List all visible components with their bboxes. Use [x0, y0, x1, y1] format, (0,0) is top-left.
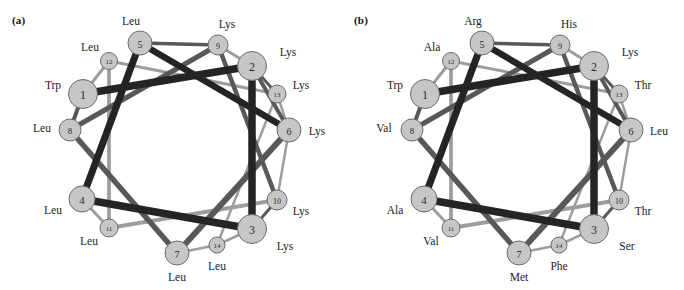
residue-node-14[interactable] [551, 237, 567, 253]
residue-node-10[interactable] [609, 190, 629, 210]
residue-label-1: Trp [45, 79, 61, 91]
residue-node-13[interactable] [610, 85, 628, 103]
residue-label-4: Ala [387, 204, 404, 216]
residue-node-10[interactable] [267, 190, 287, 210]
residue-label-3: Lys [277, 240, 294, 252]
residue-label-10: Lys [293, 205, 310, 217]
panel-b: (b)1234567891011121314TrpLysSerAlaArgLeu… [342, 0, 684, 290]
residue-node-3[interactable] [580, 215, 609, 244]
residue-node-9[interactable] [550, 35, 570, 55]
residue-node-11[interactable] [442, 219, 460, 237]
residue-node-13[interactable] [268, 85, 286, 103]
helical-wheel-figure: (a)1234567891011121314TrpLysLysLeuLeuLys… [0, 0, 684, 290]
residue-node-6[interactable] [619, 118, 643, 142]
residue-label-6: Lys [309, 125, 326, 137]
residue-label-3: Ser [619, 240, 634, 252]
residue-node-8[interactable] [401, 119, 423, 141]
edge-5-6 [482, 43, 631, 130]
residue-label-11: Leu [80, 235, 98, 247]
residue-label-7: Leu [168, 271, 186, 283]
residue-label-9: Lys [219, 18, 236, 30]
residue-label-11: Val [423, 235, 438, 247]
residue-node-12[interactable] [443, 53, 460, 70]
residue-label-8: Val [376, 122, 391, 134]
residue-label-8: Leu [33, 122, 51, 134]
residue-label-2: Lys [280, 46, 297, 58]
residue-label-6: Leu [650, 125, 668, 137]
residue-label-2: Lys [622, 46, 639, 58]
residue-label-12: Leu [81, 41, 99, 53]
residue-label-7: Met [510, 271, 529, 283]
residue-label-1: Trp [387, 79, 403, 91]
residue-label-14: Leu [208, 260, 226, 272]
panel-a: (a)1234567891011121314TrpLysLysLeuLeuLys… [0, 0, 342, 290]
residue-node-2[interactable] [580, 52, 609, 81]
residue-node-5[interactable] [128, 31, 152, 55]
residue-node-7[interactable] [165, 241, 189, 265]
residue-node-12[interactable] [101, 53, 118, 70]
residue-node-7[interactable] [507, 241, 531, 265]
residue-node-1[interactable] [69, 80, 98, 109]
residue-node-9[interactable] [208, 35, 228, 55]
residue-node-4[interactable] [69, 186, 95, 212]
residue-node-3[interactable] [238, 215, 267, 244]
residue-label-5: Arg [464, 15, 482, 27]
residue-node-2[interactable] [238, 52, 267, 81]
residue-node-6[interactable] [277, 118, 301, 142]
residue-label-14: Phe [550, 260, 567, 272]
residue-node-11[interactable] [100, 219, 118, 237]
edge-5-6 [140, 43, 289, 130]
residue-label-4: Leu [44, 204, 62, 216]
residue-node-1[interactable] [411, 80, 440, 109]
residue-label-5: Leu [122, 15, 140, 27]
residue-label-9: His [561, 18, 577, 30]
residue-node-4[interactable] [411, 186, 437, 212]
residue-label-13: Lys [293, 79, 310, 91]
residue-label-10: Thr [635, 205, 652, 217]
residue-node-8[interactable] [59, 119, 81, 141]
residue-node-5[interactable] [470, 31, 494, 55]
residue-label-13: Thr [635, 79, 652, 91]
residue-node-14[interactable] [209, 237, 225, 253]
residue-label-12: Ala [424, 41, 441, 53]
